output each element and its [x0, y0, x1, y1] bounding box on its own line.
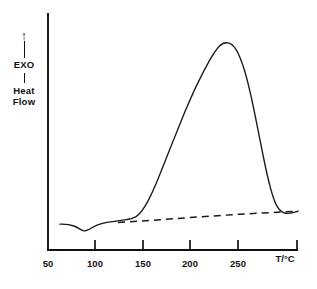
x-tick-label-50: 50 [43, 258, 54, 269]
plot-area: 50 100 150 200 250 T/°C [0, 0, 317, 289]
dsc-curve [60, 43, 298, 231]
x-tick-label-150: 150 [135, 258, 151, 269]
x-tick-label-250: 250 [230, 258, 246, 269]
baseline-dashed-line [118, 211, 298, 222]
dsc-thermogram-figure: ↑ EXO Heat Flow 50 100 150 200 250 T/°C [0, 0, 317, 289]
x-axis-title: T/°C [275, 253, 294, 264]
x-tick-label-200: 200 [182, 258, 198, 269]
page-edge-artifact [0, 279, 317, 289]
x-tick-label-100: 100 [87, 258, 103, 269]
